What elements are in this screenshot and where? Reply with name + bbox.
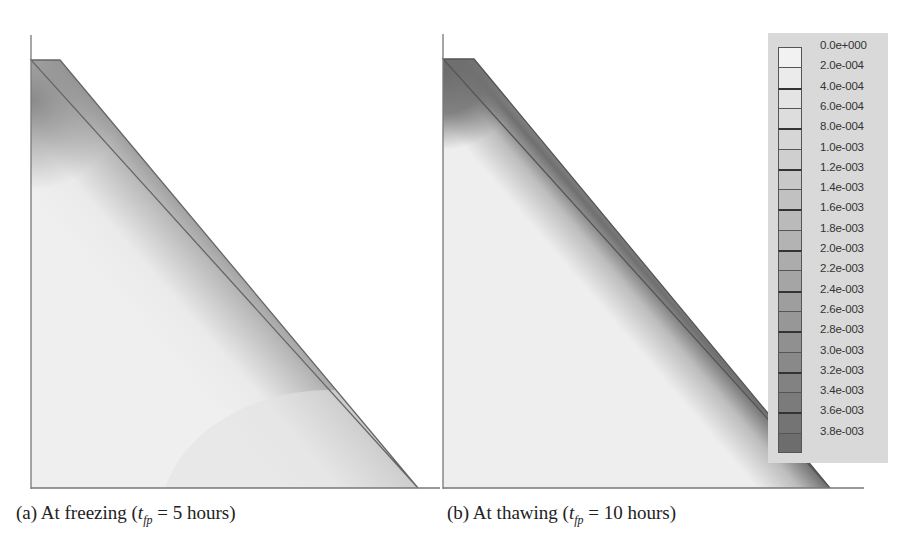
caption-b: (b) At thawing (tfp = 10 hours) bbox=[447, 502, 676, 528]
legend-label: 1.6e-003 bbox=[820, 201, 864, 213]
legend-label: 1.4e-003 bbox=[820, 181, 864, 193]
legend-swatch bbox=[778, 291, 802, 312]
contour-plot-a bbox=[0, 0, 450, 500]
legend-label: 2.0e-003 bbox=[820, 242, 864, 254]
color-legend: 0.0e+0002.0e-0044.0e-0046.0e-0048.0e-004… bbox=[768, 33, 888, 463]
legend-swatch bbox=[778, 352, 802, 373]
legend-swatch bbox=[778, 149, 802, 170]
legend-label: 3.2e-003 bbox=[820, 364, 864, 376]
legend-label: 2.4e-003 bbox=[820, 283, 864, 295]
legend-label: 6.0e-004 bbox=[820, 100, 864, 112]
legend-label: 3.0e-003 bbox=[820, 344, 864, 356]
legend-swatch bbox=[778, 311, 802, 332]
legend-label: 2.6e-003 bbox=[820, 303, 864, 315]
legend-label: 3.4e-003 bbox=[820, 384, 864, 396]
legend-swatch bbox=[778, 128, 802, 149]
legend-label: 8.0e-004 bbox=[820, 120, 864, 132]
legend-swatch bbox=[778, 67, 802, 88]
legend-swatch bbox=[778, 250, 802, 271]
legend-label: 1.8e-003 bbox=[820, 222, 864, 234]
legend-label: 2.2e-003 bbox=[820, 262, 864, 274]
panel-a-freezing bbox=[0, 0, 450, 500]
legend-label: 4.0e-004 bbox=[820, 80, 864, 92]
legend-swatch bbox=[778, 88, 802, 109]
legend-label: 2.8e-003 bbox=[820, 323, 864, 335]
legend-swatch bbox=[778, 372, 802, 393]
legend-swatch bbox=[778, 331, 802, 352]
legend-swatch bbox=[778, 169, 802, 190]
legend-label: 0.0e+000 bbox=[820, 39, 867, 51]
legend-swatch bbox=[778, 433, 802, 454]
legend-swatch bbox=[778, 209, 802, 230]
legend-label: 3.8e-003 bbox=[820, 425, 864, 437]
legend-swatch bbox=[778, 270, 802, 291]
legend-label: 2.0e-004 bbox=[820, 59, 864, 71]
legend-swatch bbox=[778, 47, 802, 68]
caption-a: (a) At freezing (tfp = 5 hours) bbox=[16, 502, 236, 528]
legend-swatch bbox=[778, 392, 802, 413]
legend-label: 3.6e-003 bbox=[820, 404, 864, 416]
legend-swatch bbox=[778, 189, 802, 210]
legend-label: 1.2e-003 bbox=[820, 161, 864, 173]
legend-swatch bbox=[778, 108, 802, 129]
legend-swatch bbox=[778, 412, 802, 433]
legend-label: 1.0e-003 bbox=[820, 141, 864, 153]
legend-swatch bbox=[778, 230, 802, 251]
